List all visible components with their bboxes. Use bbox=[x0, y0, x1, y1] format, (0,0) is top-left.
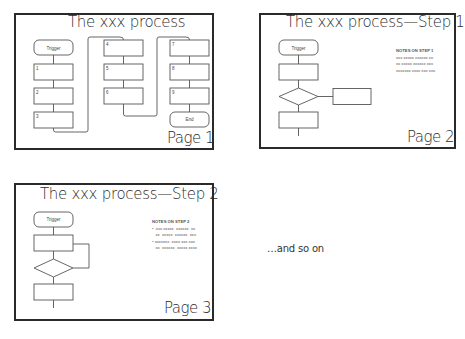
and-so-on-text: …and so on bbox=[267, 243, 324, 254]
notes-line: xx xxxxx xxxxxx xxx bbox=[152, 232, 197, 239]
notes-line: • xxx xxxxx xxxxxx xx bbox=[152, 226, 197, 233]
trigger-label: Trigger bbox=[46, 217, 61, 222]
process-node bbox=[34, 235, 73, 251]
page-3-label: Page 3 bbox=[164, 299, 211, 317]
next-node bbox=[34, 284, 73, 300]
notes-line: xx xxxxxx xxxxx xxxx bbox=[152, 245, 197, 252]
notes-heading: NOTES ON STEP 2 bbox=[152, 219, 197, 226]
decision-node bbox=[34, 259, 73, 277]
page-3-notes: NOTES ON STEP 2 • xxx xxxxx xxxxxx xx xx… bbox=[152, 219, 197, 252]
notes-line: • xxxxxxx xxxx xxx xxx bbox=[152, 239, 197, 246]
